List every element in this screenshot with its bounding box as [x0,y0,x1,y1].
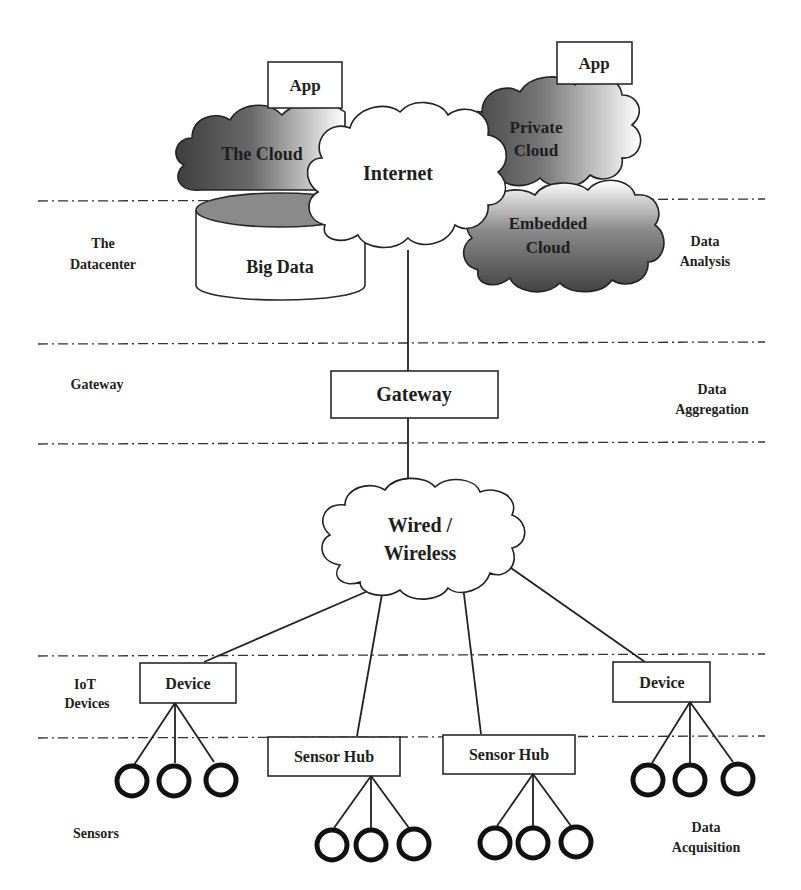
big-data-label: Big Data [246,257,314,277]
internet-label: Internet [363,162,433,184]
layer-label-gateway: Gateway [71,377,124,392]
sensor-hub-right-node: Sensor Hub [443,735,575,774]
sensor-icon [117,766,147,796]
separator-devices-sensors [38,736,765,738]
sensor-icon [480,828,510,858]
sensor-icon [206,765,236,795]
wired-wireless-label-line1: Wired / [388,514,453,536]
layer-label-data-analysis-line2: Analysis [680,254,731,269]
embedded-cloud-label-line1: Embedded [509,214,588,233]
sensor-icon [399,829,429,859]
private-cloud-label-line2: Cloud [514,141,559,160]
device-right-label: Device [639,674,684,691]
private-cloud-label-line1: Private [510,118,563,137]
layer-label-data-acquisition-line2: Acquisition [672,840,741,855]
wired-wireless-node: Wired / Wireless [322,478,525,599]
layer-label-datacenter-line1: The [91,236,114,251]
app-right-label: App [578,54,609,73]
sensor-group-hub-right [480,774,591,858]
device-left-node: Device [140,663,236,703]
link-network-hub-left [357,594,382,736]
sensor-icon [356,830,386,860]
layer-label-iot-devices-line1: IoT [74,677,96,692]
sensor-icon [723,764,753,794]
device-left-label: Device [165,675,210,692]
link-network-device-right [504,563,645,662]
sensor-group-device-left [117,703,236,796]
sensor-hub-left-label: Sensor Hub [294,748,374,765]
layer-label-data-aggregation-line2: Aggregation [675,402,749,417]
layer-label-iot-devices-line2: Devices [64,696,110,711]
layer-label-data-analysis-line1: Data [691,234,720,249]
gateway-label: Gateway [376,383,452,406]
layer-label-sensors: Sensors [73,826,119,841]
layer-label-datacenter-line2: Datacenter [70,257,136,272]
app-left-node: App [268,62,342,108]
sensor-icon [633,765,663,795]
app-right-node: App [557,42,632,84]
separator-datacenter-gateway [38,342,765,344]
left-layer-labels: The Datacenter Gateway IoT Devices Senso… [64,236,136,841]
link-network-device-left [204,591,368,662]
link-network-hub-right [463,586,481,734]
sensor-group-device-right [633,702,753,795]
sensor-hub-right-label: Sensor Hub [469,746,549,763]
sensor-icon [518,828,548,858]
sensor-icon [317,830,347,860]
device-right-node: Device [613,662,710,702]
sensor-icon [561,827,591,857]
layer-separators [38,199,765,738]
sensor-group-hub-left [317,776,429,860]
sensor-icon [675,765,705,795]
layer-label-data-aggregation-line1: Data [698,382,727,397]
wired-wireless-label-line2: Wireless [384,542,457,564]
gateway-node: Gateway [331,371,498,418]
sensor-hub-left-node: Sensor Hub [268,737,400,776]
layer-label-data-acquisition-line1: Data [692,820,721,835]
separator-gateway-network [38,442,765,444]
sensor-icon [159,766,189,796]
iot-architecture-diagram: The Cloud Big Data App Private Cloud App… [0,0,801,890]
separator-devices-top [38,654,765,656]
the-cloud-label: The Cloud [221,144,303,164]
app-left-label: App [289,76,320,95]
embedded-cloud-label-line2: Cloud [526,238,571,257]
